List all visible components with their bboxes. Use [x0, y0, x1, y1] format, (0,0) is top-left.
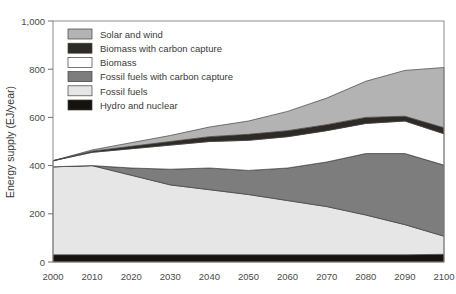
y-axis-title: Energy supply (EJ/year)	[4, 86, 16, 198]
x-tick-label: 2000	[42, 271, 63, 282]
legend-label-fossil-fuels-with-carbon-capture: Fossil fuels with carbon capture	[100, 71, 233, 82]
chart-canvas: 02004006008001,000 200020102020203020402…	[0, 0, 456, 294]
legend-swatch-fossil-fuels-with-carbon-capture	[68, 72, 92, 82]
x-tick-label: 2020	[121, 271, 142, 282]
y-axis-ticks-group: 02004006008001,000	[21, 16, 53, 268]
legend-swatch-solar-and-wind	[68, 29, 92, 39]
legend-label-fossil-fuels: Fossil fuels	[100, 86, 148, 97]
x-tick-label: 2080	[355, 271, 376, 282]
x-tick-label: 2030	[160, 271, 181, 282]
legend-swatch-biomass	[68, 57, 92, 67]
y-tick-label: 1,000	[21, 16, 45, 27]
y-tick-label: 0	[40, 257, 45, 268]
x-tick-label: 2040	[199, 271, 220, 282]
legend-label-biomass-with-carbon-capture: Biomass with carbon capture	[100, 43, 222, 54]
area-band-hydro-and-nuclear	[53, 254, 444, 262]
x-tick-label: 2050	[238, 271, 259, 282]
x-tick-label: 2010	[82, 271, 103, 282]
x-tick-label: 2070	[316, 271, 337, 282]
x-axis-ticks-group: 2000201020202030204020502060207020802090…	[42, 271, 454, 282]
stacked-areas-group	[53, 68, 444, 262]
chart-legend: Solar and windBiomass with carbon captur…	[68, 29, 233, 111]
y-tick-label: 200	[29, 208, 45, 219]
x-tick-label: 2060	[277, 271, 298, 282]
energy-supply-area-chart: 02004006008001,000 200020102020203020402…	[0, 0, 456, 294]
legend-label-hydro-and-nuclear: Hydro and nuclear	[100, 100, 178, 111]
legend-swatch-biomass-with-carbon-capture	[68, 43, 92, 53]
legend-swatch-fossil-fuels	[68, 86, 92, 96]
y-tick-label: 400	[29, 160, 45, 171]
y-tick-label: 800	[29, 64, 45, 75]
legend-swatch-hydro-and-nuclear	[68, 100, 92, 110]
x-tick-label: 2100	[433, 271, 454, 282]
legend-label-solar-and-wind: Solar and wind	[100, 29, 163, 40]
x-tick-label: 2090	[394, 271, 415, 282]
y-tick-label: 600	[29, 112, 45, 123]
legend-label-biomass: Biomass	[100, 57, 137, 68]
